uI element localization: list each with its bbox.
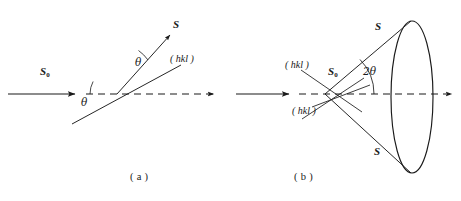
panel-b-hkl-lower-label: ( hkl ): [292, 106, 316, 116]
panel-b-cone-ray-upper: [325, 21, 411, 94]
panel-b-debye-ring: [391, 21, 433, 173]
panel-a-caption: ( a ): [130, 172, 148, 183]
panel-b-geometry: [236, 21, 452, 173]
panel-b-cone-ray-upper-label: S: [375, 21, 381, 32]
panel-a-hkl-label: ( hkl ): [170, 54, 194, 64]
panel-b-two-theta-label: 2θ: [363, 66, 376, 77]
panel-a-theta-incident-label: θ: [81, 97, 87, 108]
panel-b-cone-ray-lower: [325, 94, 411, 173]
panel-a-diffracted-beam-label: S: [173, 19, 179, 30]
panel-a-theta-diffracted-label: θ: [135, 57, 141, 68]
panel-b-hkl-upper-label: ( hkl ): [285, 60, 309, 70]
panel-a-geometry: [8, 35, 214, 124]
panel-a-incident-beam-label: S0: [40, 66, 50, 77]
panel-a-theta-arc-incident: [90, 82, 93, 95]
diffraction-diagram-svg: [0, 0, 461, 201]
panel-b-caption: ( b ): [294, 172, 313, 183]
panel-b-plane-line-3: [312, 85, 370, 107]
panel-b-cone-ray-lower-label: S: [374, 146, 380, 157]
panel-b-incident-beam-label: S0: [328, 66, 338, 77]
figure-root: S0 S ( hkl ) θ θ ( a ) S0 ( hkl ) ( hkl …: [0, 0, 461, 201]
